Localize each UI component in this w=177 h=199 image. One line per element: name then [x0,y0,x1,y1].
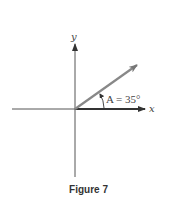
diagram-canvas: y x A = 35° [0,0,177,199]
figure-caption: Figure 7 [0,184,177,195]
y-axis-label: y [70,31,77,42]
x-axis-label: x [149,103,155,114]
angle-label: A = 35° [106,93,140,105]
angle-arc [100,94,104,108]
